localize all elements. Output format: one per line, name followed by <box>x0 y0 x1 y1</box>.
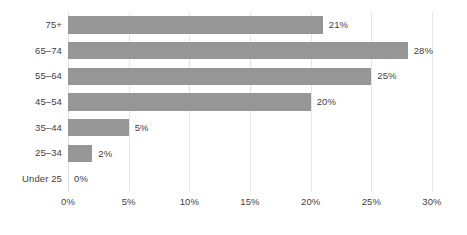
bar <box>68 119 129 136</box>
x-tick-label: 30% <box>422 196 441 207</box>
bar-value-label: 25% <box>377 67 396 84</box>
x-tick-label: 15% <box>240 196 259 207</box>
bar <box>68 93 311 110</box>
x-tick-label: 25% <box>362 196 381 207</box>
bar-value-label: 2% <box>98 145 112 162</box>
bar-row: 0% <box>68 166 432 192</box>
gridline-30% <box>432 12 433 192</box>
value-axis: 0%5%10%15%20%25%30% <box>68 196 432 216</box>
bar-chart: 75+65–7455–6445–5435–4425–34Under 25 21%… <box>0 0 467 235</box>
bar-value-label: 0% <box>74 170 88 187</box>
category-label: 65–74 <box>0 45 62 56</box>
bar-row: 20% <box>68 89 432 115</box>
x-tick-label: 20% <box>301 196 320 207</box>
bar-value-label: 20% <box>317 93 336 110</box>
bar-row: 28% <box>68 38 432 64</box>
bar <box>68 16 323 33</box>
category-axis: 75+65–7455–6445–5435–4425–34Under 25 <box>0 12 62 192</box>
bar-row: 5% <box>68 115 432 141</box>
bar <box>68 68 371 85</box>
category-label: 55–64 <box>0 70 62 81</box>
bar <box>68 42 408 59</box>
bar <box>68 145 92 162</box>
category-label: 35–44 <box>0 122 62 133</box>
bar-row: 25% <box>68 63 432 89</box>
category-label: Under 25 <box>0 173 62 184</box>
bar-value-label: 5% <box>135 119 149 136</box>
x-tick-label: 0% <box>61 196 75 207</box>
category-label: 75+ <box>0 19 62 30</box>
x-tick-label: 5% <box>122 196 136 207</box>
x-tick-label: 10% <box>180 196 199 207</box>
plot-area: 21%28%25%20%5%2%0% <box>68 12 432 192</box>
bar-value-label: 21% <box>329 16 348 33</box>
bar-row: 21% <box>68 12 432 38</box>
bar-row: 2% <box>68 141 432 167</box>
category-label: 45–54 <box>0 96 62 107</box>
category-label: 25–34 <box>0 147 62 158</box>
bar-value-label: 28% <box>414 42 433 59</box>
